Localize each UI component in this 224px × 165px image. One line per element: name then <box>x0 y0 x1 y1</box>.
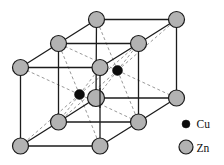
crystal-structure-figure: Cu Zn <box>0 0 224 165</box>
body-diagonal-line <box>59 44 118 71</box>
zn-atom <box>169 90 185 106</box>
zn-atom <box>51 36 67 52</box>
body-diagonal-line <box>21 95 80 147</box>
crystal-svg: Cu Zn <box>0 0 224 165</box>
body-diagonal-line <box>118 20 177 71</box>
zn-atoms <box>13 12 185 155</box>
legend-cu-dot-icon <box>182 120 190 128</box>
cu-atom <box>113 66 123 76</box>
zn-atom <box>131 114 147 130</box>
cu-atom <box>75 90 85 100</box>
zn-atom <box>88 90 105 107</box>
body-diagonal-line <box>21 68 80 95</box>
cube-edge <box>96 20 97 99</box>
zn-atom <box>89 12 105 28</box>
zn-atom <box>13 138 29 154</box>
legend-zn-circle-icon <box>179 140 193 154</box>
legend: Cu Zn <box>179 118 210 154</box>
body-diagonal-lines <box>21 20 177 147</box>
body-diagonal-line <box>80 44 139 95</box>
zn-atom <box>131 36 147 52</box>
cube-edges <box>21 20 177 147</box>
body-diagonal-line <box>118 71 177 99</box>
zn-atom <box>92 138 108 154</box>
zn-atom <box>51 114 67 130</box>
zn-atom <box>13 60 29 76</box>
legend-label-cu: Cu <box>197 118 211 130</box>
zn-atom <box>169 12 185 28</box>
legend-label-zn: Zn <box>197 142 210 154</box>
legend-markers <box>179 120 193 154</box>
zn-atom <box>92 60 108 76</box>
